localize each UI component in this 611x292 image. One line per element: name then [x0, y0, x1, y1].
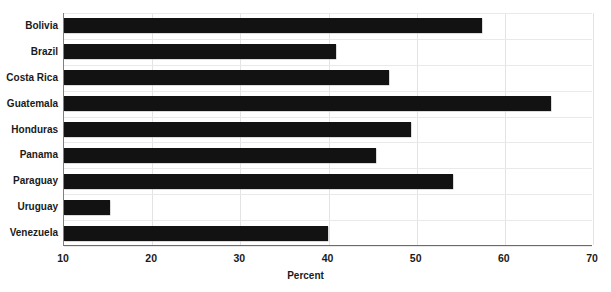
x-tick-label: 20 [145, 253, 157, 264]
horizontal-gridline [64, 39, 592, 40]
category-label: Paraguay [0, 176, 58, 186]
x-tick-label: 40 [322, 253, 334, 264]
bar [64, 174, 453, 189]
category-label: Brazil [0, 47, 58, 57]
vertical-gridline [417, 13, 418, 245]
horizontal-gridline [64, 91, 592, 92]
x-tick-label: 10 [57, 253, 69, 264]
vertical-gridline [505, 13, 506, 245]
bar [64, 70, 389, 85]
bar [64, 122, 411, 137]
category-label: Uruguay [0, 202, 58, 212]
vertical-gridline [593, 13, 594, 245]
horizontal-gridline [64, 194, 592, 195]
horizontal-gridline [64, 13, 592, 14]
horizontal-gridline [64, 142, 592, 143]
bar [64, 44, 336, 59]
category-label: Venezuela [0, 228, 58, 238]
horizontal-gridline [64, 220, 592, 221]
category-label: Bolivia [0, 21, 58, 31]
horizontal-gridline [64, 117, 592, 118]
horizontal-gridline [64, 168, 592, 169]
bar [64, 226, 328, 241]
x-tick-label: 70 [586, 253, 598, 264]
bar-chart: BoliviaBrazilCosta RicaGuatemalaHonduras… [0, 0, 611, 292]
bar [64, 96, 551, 111]
category-label: Guatemala [0, 99, 58, 109]
category-label: Costa Rica [0, 73, 58, 83]
bar [64, 18, 482, 33]
horizontal-gridline [64, 246, 592, 247]
horizontal-gridline [64, 65, 592, 66]
clipped-chart-title [150, 0, 591, 4]
bar [64, 200, 110, 215]
category-label: Panama [0, 150, 58, 160]
x-tick-label: 60 [498, 253, 510, 264]
x-tick-label: 30 [233, 253, 245, 264]
category-label: Honduras [0, 125, 58, 135]
x-axis-title: Percent [0, 270, 611, 281]
x-tick-label: 50 [410, 253, 422, 264]
bar [64, 148, 376, 163]
